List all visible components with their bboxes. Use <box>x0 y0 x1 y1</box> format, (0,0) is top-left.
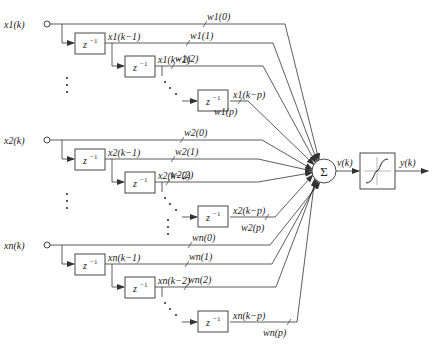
delay-label: z <box>132 62 137 73</box>
weight-label: w2(0) <box>184 127 208 139</box>
svg-text:−1: −1 <box>140 60 148 68</box>
svg-text:−1: −1 <box>213 315 221 323</box>
weight-label: w1(0) <box>207 11 231 23</box>
tap-signal-label: x2(k−p) <box>232 205 266 217</box>
weighted-connection <box>230 101 314 165</box>
delay-label: z <box>205 317 210 328</box>
tap-signal-label: x1(k−1) <box>107 31 141 43</box>
input-group-2: x2(k)z−1z−1z−1x2(k−1)x2(k−2)x2(k−p)w2(0)… <box>3 127 313 234</box>
weight-label: w2(p) <box>241 222 265 234</box>
delay-label: z <box>132 178 137 189</box>
delay-label: z <box>82 39 87 50</box>
tap-signal-label: x1(k−p) <box>232 89 266 101</box>
input-label: x2(k) <box>3 135 25 147</box>
svg-text:−1: −1 <box>140 281 148 289</box>
svg-text:−1: −1 <box>213 210 221 218</box>
weight-label: w2(2) <box>170 169 194 181</box>
weighted-connection <box>155 180 316 287</box>
summing-junction: Σ <box>312 159 336 183</box>
svg-text:−1: −1 <box>140 176 148 184</box>
svg-text:−1: −1 <box>90 37 98 45</box>
weight-label: w2(1) <box>175 146 199 158</box>
input-node-icon <box>44 21 50 27</box>
tap-signal-label: x2(k−1) <box>107 147 141 159</box>
input-label: xn(k) <box>3 240 25 252</box>
input-label: x1(k) <box>3 19 25 31</box>
weight-label: w1(2) <box>175 53 199 65</box>
tap-signal-label: xn(k−p) <box>232 310 266 322</box>
weight-label: wn(0) <box>192 232 216 244</box>
output-label: y(k) <box>399 157 416 169</box>
tap-signal-label: xn(k−1) <box>107 252 141 264</box>
svg-text:−1: −1 <box>90 153 98 161</box>
input-node-icon <box>44 242 50 248</box>
delay-label: z <box>205 96 210 107</box>
tap-signal-label: xn(k−2) <box>157 275 191 287</box>
delay-label: z <box>132 283 137 294</box>
input-group-1: x1(k)z−1z−1z−1x1(k−1)x1(k−2)x1(k−p)w1(0)… <box>3 11 319 165</box>
weight-label: wn(2) <box>188 274 212 286</box>
weight-label: w1(p) <box>214 106 238 118</box>
svg-text:−1: −1 <box>213 94 221 102</box>
weight-label: w1(1) <box>190 30 214 42</box>
neural-fir-diagram: x1(k)z−1z−1z−1x1(k−1)x1(k−2)x1(k−p)w1(0)… <box>0 0 437 348</box>
delay-label: z <box>205 212 210 223</box>
delay-label: z <box>82 260 87 271</box>
summer-output-label: v(k) <box>337 157 353 169</box>
weighted-connection <box>50 182 320 245</box>
svg-text:−1: −1 <box>90 258 98 266</box>
sigma-label: Σ <box>320 164 328 179</box>
input-node-icon <box>44 137 50 143</box>
weighted-connection <box>105 159 312 171</box>
activation-function-box <box>360 153 395 189</box>
delay-label: z <box>82 155 87 166</box>
weight-label: wn(1) <box>189 251 213 263</box>
input-group-n: xn(k)z−1z−1z−1xn(k−1)xn(k−2)xn(k−p)wn(0)… <box>3 179 320 339</box>
weighted-connection <box>230 179 315 322</box>
weight-label: wn(p) <box>263 327 287 339</box>
